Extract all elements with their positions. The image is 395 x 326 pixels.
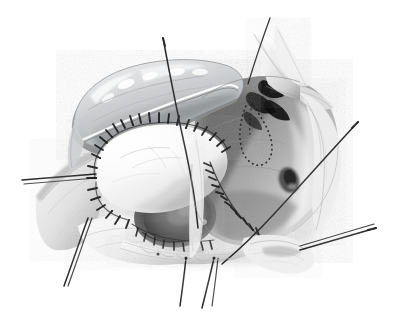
figure-container: Open surgical field with sutured tissue …: [0, 0, 395, 326]
surgical-illustration: Open surgical field with sutured tissue …: [0, 0, 395, 326]
